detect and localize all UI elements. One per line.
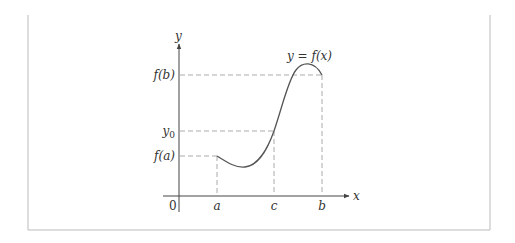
function-curve: [217, 64, 322, 167]
y-axis-label: y: [174, 29, 182, 43]
x-axis-label: x: [353, 189, 360, 203]
ivt-diagram: y x 0 y = f(x) f(b) y0 f(a) a c b: [0, 0, 515, 243]
xtick-b: b: [318, 199, 326, 213]
origin-label: 0: [169, 199, 177, 213]
ytick-fa: f(a): [153, 149, 175, 163]
ytick-y0: y0: [161, 124, 175, 140]
ytick-fb: f(b): [153, 68, 176, 82]
figure-frame: [28, 15, 490, 230]
xtick-a: a: [213, 199, 220, 213]
xtick-c: c: [271, 199, 278, 213]
curve-label: y = f(x): [286, 49, 332, 63]
